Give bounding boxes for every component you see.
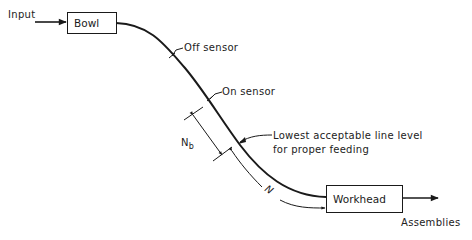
input-label: Input bbox=[8, 9, 35, 21]
workhead-label: Workhead bbox=[333, 193, 386, 205]
bowl-label: Bowl bbox=[74, 17, 99, 29]
n-dimension-curve-upper bbox=[232, 151, 262, 187]
nb-dimension-line bbox=[193, 115, 222, 155]
nb-label-sub: b bbox=[189, 142, 194, 151]
workhead-box: Workhead bbox=[326, 185, 403, 213]
bowl-box: Bowl bbox=[67, 12, 117, 34]
nb-extension-bottom bbox=[213, 147, 232, 161]
on-sensor-label: On sensor bbox=[222, 86, 275, 98]
off-sensor-label: Off sensor bbox=[184, 42, 238, 54]
n-dimension-curve-lower bbox=[280, 200, 325, 208]
nb-label: Nb bbox=[181, 137, 194, 150]
output-label: Assemblies bbox=[401, 217, 460, 229]
on-sensor-leader bbox=[210, 92, 222, 99]
lowest-level-label-line1: Lowest acceptable line level bbox=[273, 130, 423, 142]
nb-extension-top bbox=[184, 107, 203, 120]
nb-label-main: N bbox=[181, 137, 189, 148]
lowest-level-arrowhead bbox=[238, 137, 246, 144]
lowest-level-label-line2: for proper feeding bbox=[273, 144, 369, 156]
